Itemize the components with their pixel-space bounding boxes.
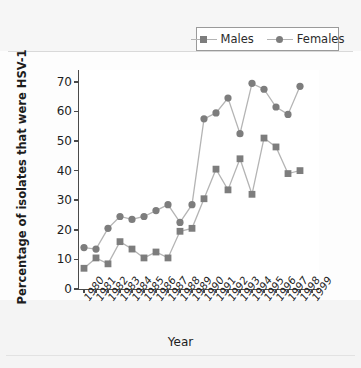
data-point-females-1994: [248, 80, 255, 87]
data-point-males-1991: [213, 166, 220, 173]
data-point-males-1986: [153, 249, 160, 256]
data-point-females-1995: [260, 86, 267, 93]
y-tick-label: 50: [50, 134, 72, 148]
y-tick-label: 30: [50, 193, 72, 207]
data-point-males-1997: [285, 170, 292, 177]
y-tick-label: 10: [50, 252, 72, 266]
data-point-males-1985: [141, 255, 148, 262]
data-point-females-1983: [116, 213, 123, 220]
data-point-males-1982: [105, 260, 112, 267]
data-point-males-1995: [261, 135, 268, 142]
data-point-females-1989: [188, 201, 195, 208]
data-point-males-1981: [93, 255, 100, 262]
data-point-females-1992: [224, 95, 231, 102]
data-point-males-1984: [129, 246, 136, 253]
data-point-males-1989: [189, 225, 196, 232]
x-axis-label: Year: [0, 335, 361, 349]
data-point-females-1984: [128, 216, 135, 223]
data-point-males-1980: [81, 265, 88, 272]
data-point-females-1991: [212, 109, 219, 116]
y-tick-label: 20: [50, 223, 72, 237]
series-line-females: [84, 83, 300, 249]
data-point-males-1996: [273, 144, 280, 151]
y-tick-label: 70: [50, 75, 72, 89]
data-point-females-1987: [164, 201, 171, 208]
data-point-females-1993: [236, 130, 243, 137]
plot-area: 0102030405060701980198119821983198419851…: [0, 0, 361, 368]
chart-page: Males Females 01020304050607019801981198…: [0, 0, 361, 368]
data-point-females-1985: [140, 213, 147, 220]
data-point-females-1988: [176, 219, 183, 226]
data-point-females-1990: [200, 115, 207, 122]
data-point-females-1982: [104, 225, 111, 232]
data-point-males-1983: [117, 238, 124, 245]
y-axis-label: Percentage of isolates that were HSV-1: [15, 49, 29, 304]
data-point-females-1981: [92, 245, 99, 252]
data-point-females-1986: [152, 207, 159, 214]
data-point-females-1998: [296, 83, 303, 90]
data-point-females-1980: [80, 244, 87, 251]
data-point-males-1990: [201, 195, 208, 202]
series-canvas: [78, 70, 318, 289]
y-tick-label: 0: [50, 282, 72, 296]
y-tick-label: 40: [50, 164, 72, 178]
data-point-females-1996: [272, 103, 279, 110]
data-point-males-1993: [237, 155, 244, 162]
data-point-males-1994: [249, 191, 256, 198]
data-point-females-1997: [284, 111, 291, 118]
data-point-males-1987: [165, 255, 172, 262]
data-point-males-1988: [177, 228, 184, 235]
y-tick-label: 60: [50, 104, 72, 118]
data-point-males-1992: [225, 186, 232, 193]
data-point-males-1998: [297, 167, 304, 174]
